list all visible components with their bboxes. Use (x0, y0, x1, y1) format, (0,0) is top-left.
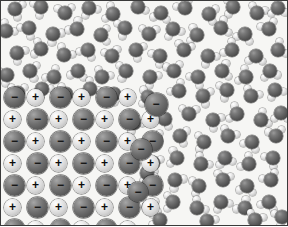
negative-charge-sign: − (11, 91, 18, 103)
negative-ion: − (4, 219, 25, 227)
positive-charge-sign: + (101, 113, 108, 125)
negative-charge-sign: − (34, 113, 41, 125)
negative-charge-sign: − (34, 157, 41, 169)
negative-ion: − (4, 87, 25, 108)
negative-charge-sign: − (11, 223, 18, 227)
negative-charge-sign: − (57, 91, 64, 103)
positive-ion: + (27, 89, 44, 106)
positive-charge-sign: + (124, 223, 131, 227)
positive-charge-sign: + (124, 135, 131, 147)
positive-ion: + (96, 155, 113, 172)
positive-ion: + (73, 133, 90, 150)
positive-ion: + (27, 133, 44, 150)
negative-charge-sign: − (103, 179, 110, 191)
positive-ion: + (27, 221, 44, 227)
negative-charge-sign: − (103, 91, 110, 103)
positive-charge-sign: + (9, 201, 16, 213)
negative-charge-sign: − (57, 179, 64, 191)
positive-charge-sign: + (78, 135, 85, 147)
negative-ion: − (96, 131, 117, 152)
detached-negative-ion: − (128, 182, 148, 202)
positive-ion: + (50, 155, 67, 172)
negative-ion: − (4, 175, 25, 196)
negative-ion: − (73, 153, 94, 174)
positive-charge-sign: + (32, 223, 39, 227)
negative-charge-sign: − (11, 135, 18, 147)
positive-charge-sign: + (9, 113, 16, 125)
positive-ion: + (50, 111, 67, 128)
positive-ion: + (4, 155, 21, 172)
negative-charge-sign: − (57, 223, 64, 227)
negative-ion: − (27, 109, 48, 130)
negative-ion: − (50, 131, 71, 152)
negative-charge-sign: − (137, 143, 144, 155)
detached-negative-ion: − (131, 139, 152, 160)
positive-charge-sign: + (78, 223, 85, 227)
molecular-illustration: −+−+−++−+−+−+−+−+−+−+−+−+−+−+−+−+−+−+−+−… (0, 0, 288, 226)
positive-ion: + (119, 221, 136, 227)
negative-charge-sign: − (57, 135, 64, 147)
positive-charge-sign: + (124, 91, 131, 103)
positive-charge-sign: + (55, 113, 62, 125)
positive-ion: + (4, 111, 21, 128)
detached-negative-ion: − (145, 93, 168, 116)
positive-charge-sign: + (78, 91, 85, 103)
positive-charge-sign: + (78, 179, 85, 191)
positive-charge-sign: + (101, 157, 108, 169)
positive-charge-sign: + (101, 201, 108, 213)
negative-charge-sign: − (152, 98, 159, 110)
negative-charge-sign: − (103, 135, 110, 147)
positive-charge-sign: + (55, 157, 62, 169)
positive-charge-sign: + (147, 157, 154, 169)
negative-charge-sign: − (34, 201, 41, 213)
crystal-layer: −+−+−++−+−+−+−+−+−+−+−+−+−+−+−+−+−+−+−+−… (1, 1, 287, 225)
positive-ion: + (96, 111, 113, 128)
positive-charge-sign: + (9, 157, 16, 169)
negative-ion: − (119, 109, 140, 130)
negative-ion: − (96, 175, 117, 196)
negative-charge-sign: − (134, 186, 141, 198)
negative-charge-sign: − (149, 179, 156, 191)
negative-ion: − (96, 87, 117, 108)
negative-ion: − (96, 219, 117, 227)
negative-ion: − (73, 197, 94, 218)
positive-ion: + (96, 199, 113, 216)
positive-ion: + (119, 89, 136, 106)
positive-charge-sign: + (147, 201, 154, 213)
negative-charge-sign: − (126, 113, 133, 125)
negative-charge-sign: − (103, 223, 110, 227)
negative-charge-sign: − (11, 179, 18, 191)
negative-charge-sign: − (126, 201, 133, 213)
positive-charge-sign: + (32, 91, 39, 103)
negative-ion: − (73, 109, 94, 130)
positive-ion: + (50, 199, 67, 216)
positive-ion: + (73, 221, 90, 227)
positive-ion: + (27, 177, 44, 194)
positive-charge-sign: + (32, 135, 39, 147)
positive-ion: + (142, 199, 159, 216)
negative-ion: − (27, 197, 48, 218)
negative-ion: − (50, 87, 71, 108)
negative-ion: − (4, 131, 25, 152)
positive-ion: + (73, 89, 90, 106)
negative-ion: − (27, 153, 48, 174)
negative-charge-sign: − (80, 157, 87, 169)
negative-charge-sign: − (80, 201, 87, 213)
negative-charge-sign: − (80, 113, 87, 125)
negative-charge-sign: − (126, 157, 133, 169)
positive-charge-sign: + (32, 179, 39, 191)
positive-charge-sign: + (55, 201, 62, 213)
positive-ion: + (4, 199, 21, 216)
negative-ion: − (50, 175, 71, 196)
negative-ion: − (50, 219, 71, 227)
positive-ion: + (73, 177, 90, 194)
